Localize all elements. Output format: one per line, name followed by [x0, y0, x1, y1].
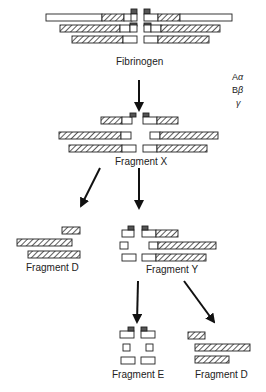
label-fragment-x: Fragment X — [115, 156, 167, 167]
fragment-d-right-molecule — [188, 332, 250, 363]
legend-a-alpha: Aα — [232, 72, 243, 82]
legend-gamma: γ — [236, 98, 241, 108]
label-fragment-d-right: Fragment D — [195, 369, 248, 380]
fibrinogen-gamma-right — [144, 36, 209, 43]
fibrinogen-a-alpha-right — [144, 9, 232, 21]
legend-b-beta: Bβ — [232, 85, 243, 95]
label-fragment-e: Fragment E — [112, 369, 164, 380]
fibrinogen-molecule — [46, 9, 232, 43]
legend-alpha-letter: α — [238, 72, 243, 82]
legend-beta-letter: β — [238, 85, 243, 95]
arrow-x-to-d — [81, 168, 100, 206]
label-fragment-d-left: Fragment D — [26, 262, 79, 273]
arrow-y-to-d — [184, 281, 214, 322]
legend-gamma-letter: γ — [236, 98, 241, 108]
fragment-e-molecule — [120, 327, 155, 364]
fibrinogen-b-beta-right — [144, 23, 220, 32]
arrow-y-to-e — [137, 281, 138, 322]
fibrinogen-b-beta-left — [60, 23, 137, 32]
fragment-y-molecule — [120, 226, 216, 261]
fibrinogen-gamma-left — [72, 36, 137, 43]
fragment-x-molecule — [59, 113, 218, 152]
fragment-d-left-molecule — [17, 227, 80, 258]
label-fragment-y: Fragment Y — [146, 264, 198, 275]
fibrinogen-a-alpha-left — [46, 9, 137, 21]
label-fibrinogen: Fibrinogen — [116, 56, 163, 67]
